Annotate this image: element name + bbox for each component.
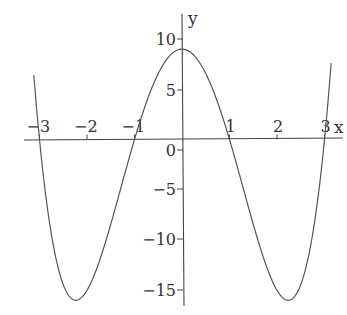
y-axis: [182, 14, 184, 306]
x-axis: [24, 138, 343, 140]
function-plot: −3−2−1123 1050−5−10−15 x y: [0, 0, 347, 315]
x-tick-label: −2: [74, 117, 98, 136]
y-tick-label: −10: [142, 230, 176, 249]
y-axis-label: y: [187, 8, 198, 28]
x-tick-label: −1: [122, 117, 146, 136]
x-ticks: −3−2−1123: [27, 117, 331, 140]
axes: [24, 14, 343, 306]
x-axis-label: x: [334, 117, 344, 137]
y-tick-label: −5: [152, 180, 176, 199]
y-tick-label: 10: [156, 30, 176, 49]
y-ticks: 1050−5−10−15: [142, 30, 183, 300]
y-tick-label: 5: [166, 81, 176, 100]
y-tick-label: −15: [142, 281, 176, 300]
y-tick-label: 0: [166, 141, 176, 160]
x-tick-label: 2: [273, 117, 283, 136]
